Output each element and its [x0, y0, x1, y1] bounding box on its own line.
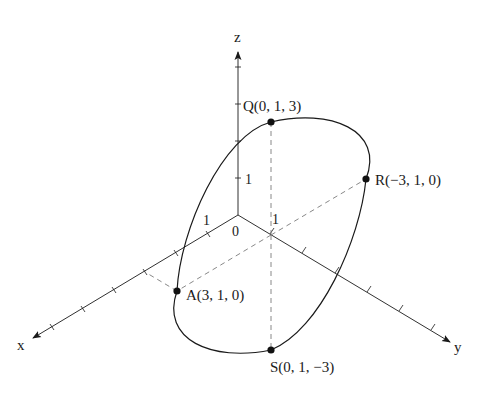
- y-unit-label: 1: [272, 212, 279, 227]
- dashed-guides: [145, 122, 366, 350]
- guide-A-to-x-axis: [145, 272, 177, 291]
- coordinate-diagram: z 1 x 1 y 1 0: [0, 0, 483, 395]
- y-axis: y 1: [238, 212, 462, 355]
- point-S-label: S(0, 1, −3): [270, 359, 334, 376]
- x-axis: x 1: [17, 213, 238, 353]
- z-unit-label: 1: [245, 172, 252, 187]
- point-A: A(3, 1, 0): [173, 287, 244, 304]
- point-A-label: A(3, 1, 0): [186, 287, 244, 304]
- z-axis: z 1: [234, 29, 252, 215]
- point-R-label: R(−3, 1, 0): [375, 172, 441, 189]
- point-R: R(−3, 1, 0): [362, 172, 441, 189]
- diagram-canvas: z 1 x 1 y 1 0: [0, 0, 483, 395]
- point-Q: Q(0, 1, 3): [243, 98, 301, 126]
- x-axis-label: x: [17, 337, 25, 353]
- x-unit-label: 1: [203, 213, 210, 228]
- origin-label: 0: [232, 224, 239, 239]
- point-Q-label: Q(0, 1, 3): [243, 98, 301, 115]
- y-axis-label: y: [454, 339, 462, 355]
- guide-to-R: [271, 179, 366, 235]
- point-S: S(0, 1, −3): [267, 346, 334, 376]
- z-axis-label: z: [234, 29, 241, 45]
